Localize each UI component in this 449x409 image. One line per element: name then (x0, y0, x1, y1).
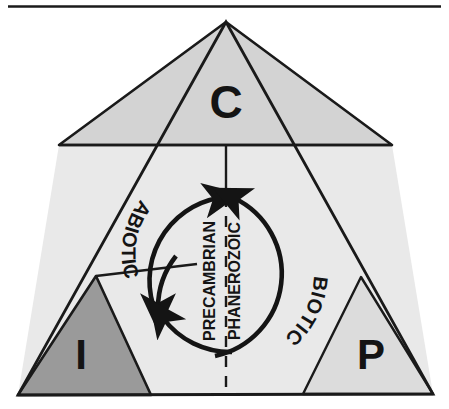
corner-label-p: P (357, 331, 385, 378)
era-label-phanerozoic: PHANEROZOIC (226, 221, 243, 340)
era-label-precambrian: PRECAMBRIAN (201, 221, 218, 341)
corner-label-i: I (75, 331, 87, 378)
corner-label-c: C (209, 76, 242, 128)
triangle-cycle-diagram: C I P ABIOTIC BIOTIC PRECAMBRIAN PHANERO… (0, 0, 449, 409)
figure-canvas: C I P ABIOTIC BIOTIC PRECAMBRIAN PHANERO… (0, 0, 449, 409)
